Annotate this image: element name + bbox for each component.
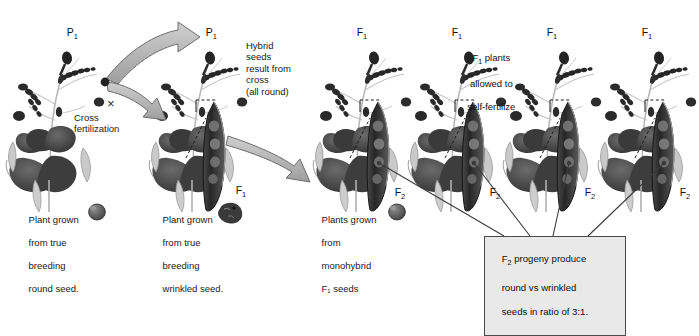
caption-wrinkled-parent: Plant grown from true breeding wrinkled … [152, 203, 223, 306]
gen-label-f1-pod: F1 [224, 172, 246, 211]
hybrid-seeds-label: Hybrid seeds result from cross (all roun… [246, 40, 291, 97]
cross-origin-seed [101, 78, 110, 87]
f2-ratio-callout: F2 progeny produce round vs wrinkled see… [484, 236, 626, 336]
gen-label-f2-pod-4: F2 [668, 174, 690, 213]
round-seed-icon-parent [89, 204, 106, 220]
caption-round-parent: Plant grown from true breeding round see… [18, 203, 79, 306]
cross-fertilization-label: Cross fertilization [74, 112, 119, 135]
gen-label-f2-pod-2: F2 [478, 174, 500, 213]
gen-label-f1-plant-1: F1 [345, 14, 367, 53]
self-fertilize-label: F1 plants allowed to self-fertilize [434, 40, 538, 124]
gen-label-f2-pod-3: F2 [573, 174, 595, 213]
gen-label-f2-pod-1: F2 [383, 174, 405, 213]
gen-label-p1-left: P1 [55, 14, 78, 53]
gen-label-f1-plant-3: F1 [535, 14, 557, 53]
caption-f1-progeny: Plants grown from monohybrid F₁ seeds [311, 203, 376, 306]
cross-arrow-up [106, 22, 200, 84]
gen-label-p1-right: P1 [194, 14, 217, 53]
cross-symbol: × [107, 96, 115, 111]
gen-label-f1-plant-4: F1 [630, 14, 652, 53]
